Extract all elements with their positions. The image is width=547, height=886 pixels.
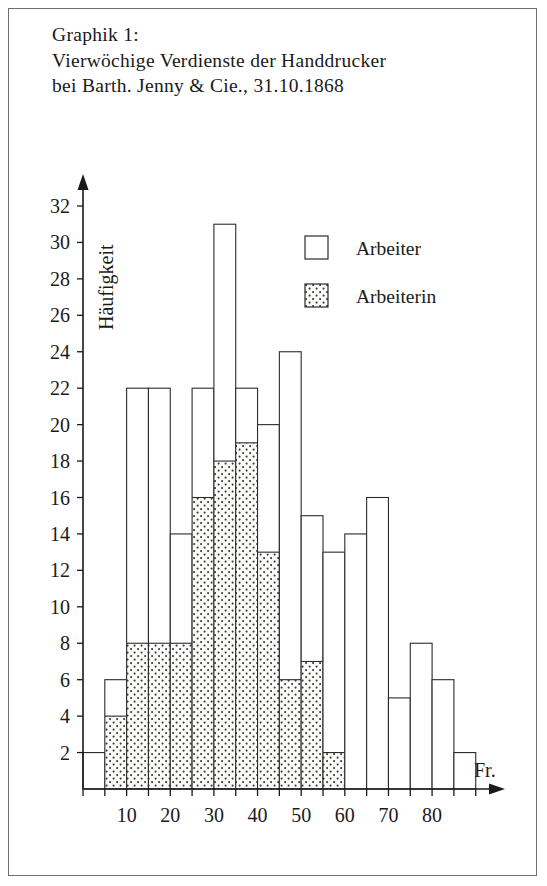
y-tick-label: 14 [50, 523, 70, 545]
bar-segment-arbeiter[interactable] [432, 680, 454, 789]
bar-segment-arbeiterin[interactable] [214, 461, 236, 789]
y-tick-label: 20 [50, 414, 70, 436]
bar-segment-arbeiter[interactable] [345, 534, 367, 789]
histogram-bar[interactable] [432, 680, 454, 789]
y-tick-label: 22 [50, 377, 70, 399]
bar-segment-arbeiterin[interactable] [279, 680, 301, 789]
bar-segment-arbeiter[interactable] [83, 753, 105, 789]
y-axis-title: Häufigkeit [95, 244, 118, 330]
bar-group [83, 224, 476, 789]
bar-segment-arbeiterin[interactable] [258, 552, 280, 789]
legend-swatch-arbeiterin [305, 284, 328, 307]
legend-item[interactable]: Arbeiter [305, 236, 421, 259]
y-tick-labels: 2468101214161820222426283032 [50, 195, 70, 764]
histogram-bar[interactable] [148, 388, 170, 789]
x-tick-labels: 1020304050607080 [117, 804, 442, 826]
y-tick-label: 10 [50, 596, 70, 618]
legend-label: Arbeiterin [356, 286, 436, 307]
histogram-bar[interactable] [83, 753, 105, 789]
y-tick-label: 24 [50, 341, 70, 363]
histogram-bar[interactable] [410, 643, 432, 789]
bar-segment-arbeiter[interactable] [388, 698, 410, 789]
x-tick-label: 70 [378, 804, 398, 826]
x-tick-label: 80 [422, 804, 442, 826]
histogram-bar[interactable] [258, 425, 280, 789]
bar-segment-arbeiterin[interactable] [127, 643, 149, 789]
histogram-bar[interactable] [279, 352, 301, 789]
x-tick-label: 40 [248, 804, 268, 826]
x-tick-label: 30 [204, 804, 224, 826]
chart-canvas: 2468101214161820222426283032 10203040506… [0, 0, 529, 868]
histogram-bar[interactable] [105, 680, 127, 789]
bar-segment-arbeiter[interactable] [454, 753, 476, 789]
histogram-bar[interactable] [214, 224, 236, 789]
histogram-bar[interactable] [367, 498, 389, 790]
bar-segment-arbeiterin[interactable] [323, 753, 345, 789]
x-tick-label: 50 [291, 804, 311, 826]
legend-label: Arbeiter [356, 238, 421, 259]
x-tick-label: 10 [117, 804, 137, 826]
bar-segment-arbeiterin[interactable] [170, 643, 192, 789]
x-tick-label: 60 [335, 804, 355, 826]
y-tick-label: 28 [50, 268, 70, 290]
y-tick-label: 8 [60, 632, 70, 654]
y-axis-arrow [78, 174, 89, 190]
y-tick-label: 18 [50, 450, 70, 472]
x-tick-label: 20 [160, 804, 180, 826]
histogram-plot: 2468101214161820222426283032 10203040506… [0, 0, 529, 868]
bar-segment-arbeiter[interactable] [367, 498, 389, 790]
bar-segment-arbeiter[interactable] [410, 643, 432, 789]
y-tick-label: 26 [50, 304, 70, 326]
legend-item[interactable]: Arbeiterin [305, 284, 436, 307]
bar-segment-arbeiterin[interactable] [236, 443, 258, 789]
histogram-bar[interactable] [192, 388, 214, 789]
y-tick-label: 6 [60, 669, 70, 691]
histogram-bar[interactable] [301, 516, 323, 789]
y-tick-label: 30 [50, 231, 70, 253]
y-tick-label: 12 [50, 559, 70, 581]
x-axis-title: Fr. [474, 759, 496, 781]
histogram-bar[interactable] [323, 552, 345, 789]
histogram-bar[interactable] [454, 753, 476, 789]
bar-segment-arbeiterin[interactable] [301, 661, 323, 789]
x-axis-arrow [489, 784, 505, 795]
histogram-bar[interactable] [236, 388, 258, 789]
y-tick-label: 16 [50, 487, 70, 509]
chart-legend[interactable]: ArbeiterArbeiterin [305, 236, 436, 307]
y-tick-label: 4 [60, 705, 70, 727]
histogram-bar[interactable] [388, 698, 410, 789]
histogram-bar[interactable] [127, 388, 149, 789]
legend-swatch-arbeiter [305, 236, 328, 259]
histogram-bar[interactable] [345, 534, 367, 789]
histogram-bar[interactable] [170, 534, 192, 789]
bar-segment-arbeiterin[interactable] [148, 643, 170, 789]
y-tick-label: 2 [60, 742, 70, 764]
bar-segment-arbeiterin[interactable] [105, 716, 127, 789]
bar-segment-arbeiterin[interactable] [192, 498, 214, 790]
y-tick-label: 32 [50, 195, 70, 217]
